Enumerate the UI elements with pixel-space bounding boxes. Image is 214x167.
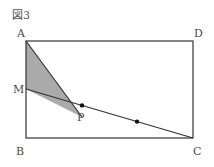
label-b: B: [16, 146, 24, 157]
point-on-mc-dot: [135, 119, 139, 123]
diagram-canvas: [0, 0, 214, 167]
label-c: C: [193, 146, 201, 157]
label-m: M: [13, 84, 24, 95]
geometry-figure: 図3 A D M P B C: [0, 0, 214, 167]
label-d: D: [194, 28, 203, 39]
point-p-dot: [80, 103, 84, 107]
label-p: P: [77, 112, 84, 123]
label-a: A: [17, 28, 25, 39]
segment-mc: [26, 89, 193, 138]
